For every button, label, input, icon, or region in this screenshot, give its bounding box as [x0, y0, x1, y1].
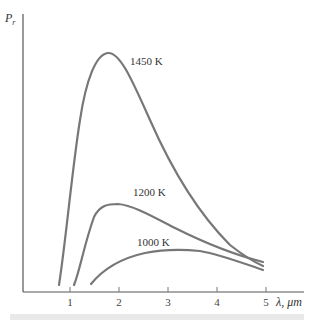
x-tick-label: 5: [263, 296, 269, 308]
bottom-divider-bar: [10, 314, 304, 320]
label-1200k: 1200 K: [133, 186, 166, 198]
x-axis-title: λ, μm: [275, 295, 302, 309]
radiation-spectrum-chart: 12345 Pr λ, μm 1450 K 1200 K 1000 K: [0, 0, 321, 325]
x-tick-label: 4: [214, 296, 220, 308]
label-1000k: 1000 K: [137, 236, 170, 248]
x-ticks: [70, 287, 266, 292]
x-tick-labels: 12345: [67, 296, 269, 308]
y-axis-title: Pr: [4, 11, 16, 27]
x-tick-label: 3: [165, 296, 171, 308]
x-tick-label: 1: [67, 296, 73, 308]
x-tick-label: 2: [116, 296, 122, 308]
label-1450k: 1450 K: [130, 55, 163, 67]
